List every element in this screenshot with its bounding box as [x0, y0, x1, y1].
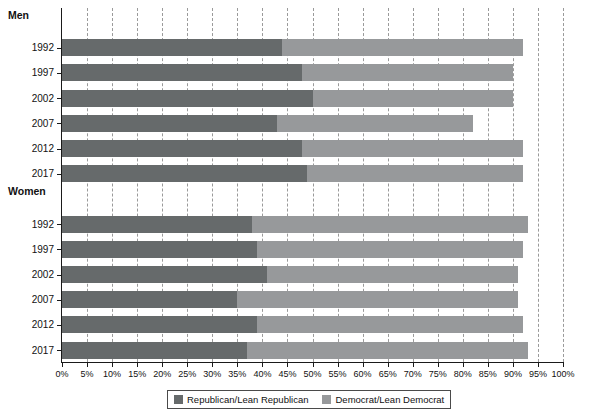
x-axis-tick-label: 0%: [55, 369, 68, 380]
gridline: [137, 8, 138, 362]
row-label-year: 2002: [0, 90, 54, 107]
gridline: [538, 8, 539, 362]
bar-segment-republican: [62, 216, 252, 233]
x-axis-tick-label: 90%: [504, 369, 522, 380]
row-label-year: 2012: [0, 316, 54, 333]
gridline: [363, 8, 364, 362]
bar-segment-democrat: [257, 316, 523, 333]
bar-segment-democrat: [313, 90, 513, 107]
bar-segment-democrat: [257, 241, 523, 258]
gridline: [262, 8, 263, 362]
row-label-year: 2007: [0, 291, 54, 308]
group-label-women: Women: [8, 185, 46, 197]
bar-segment-democrat: [307, 165, 522, 182]
bar-segment-democrat: [302, 64, 512, 81]
x-axis-tick: [187, 362, 188, 367]
legend-item-democrat: Democrat/Lean Democrat: [322, 393, 444, 406]
row-label-year: 2017: [0, 165, 54, 182]
x-axis-tick-label: 55%: [329, 369, 347, 380]
x-axis-tick-label: 75%: [429, 369, 447, 380]
bar-segment-republican: [62, 39, 282, 56]
gridline: [488, 8, 489, 362]
row-label-year: 1992: [0, 216, 54, 233]
gridline: [87, 8, 88, 362]
bar-segment-democrat: [247, 342, 528, 359]
gridline: [438, 8, 439, 362]
row-label-year: 2012: [0, 140, 54, 157]
x-axis-tick-label: 30%: [203, 369, 221, 380]
legend-label-democrat: Democrat/Lean Democrat: [335, 393, 444, 406]
x-axis-tick-label: 85%: [479, 369, 497, 380]
x-axis-tick: [287, 362, 288, 367]
x-axis-tick: [388, 362, 389, 367]
gridline: [413, 8, 414, 362]
bar-segment-republican: [62, 115, 277, 132]
bar-segment-democrat: [277, 115, 472, 132]
x-axis-tick: [488, 362, 489, 367]
legend-swatch-republican: [174, 395, 183, 404]
x-axis-tick-label: 45%: [278, 369, 296, 380]
bar-segment-democrat: [302, 140, 522, 157]
gridline: [187, 8, 188, 362]
gridline: [212, 8, 213, 362]
gridline: [563, 8, 564, 362]
row-label-year: 2007: [0, 115, 54, 132]
legend-label-republican: Republican/Lean Republican: [187, 393, 308, 406]
gridline: [287, 8, 288, 362]
x-axis-tick: [112, 362, 113, 367]
bar-segment-democrat: [282, 39, 522, 56]
x-axis-tick-label: 40%: [253, 369, 271, 380]
x-axis-tick-label: 70%: [404, 369, 422, 380]
x-axis-tick: [513, 362, 514, 367]
group-label-men: Men: [8, 9, 29, 21]
gridline: [513, 8, 514, 362]
gridline: [338, 8, 339, 362]
x-axis-tick: [262, 362, 263, 367]
x-axis-tick-label: 60%: [354, 369, 372, 380]
bar-segment-republican: [62, 266, 267, 283]
bar-segment-democrat: [267, 266, 518, 283]
x-axis-tick-label: 35%: [228, 369, 246, 380]
bar-segment-republican: [62, 140, 302, 157]
bar-segment-republican: [62, 165, 307, 182]
bar-segment-republican: [62, 316, 257, 333]
bar-segment-republican: [62, 64, 302, 81]
gridline: [388, 8, 389, 362]
x-axis-tick-label: 20%: [153, 369, 171, 380]
x-axis-tick: [212, 362, 213, 367]
row-label-year: 1997: [0, 241, 54, 258]
bar-segment-republican: [62, 241, 257, 258]
x-axis-tick: [413, 362, 414, 367]
x-axis-tick: [438, 362, 439, 367]
legend-item-republican: Republican/Lean Republican: [174, 393, 308, 406]
x-axis-tick-label: 5%: [81, 369, 94, 380]
row-label-year: 2017: [0, 342, 54, 359]
y-axis-line: [61, 8, 62, 362]
stacked-bar-chart: 0%5%10%15%20%25%30%35%40%45%50%55%60%65%…: [0, 0, 601, 410]
x-axis-tick: [363, 362, 364, 367]
row-label-year: 1992: [0, 39, 54, 56]
bar-segment-republican: [62, 342, 247, 359]
gridline: [313, 8, 314, 362]
x-axis-tick-label: 10%: [103, 369, 121, 380]
x-axis-tick-label: 25%: [178, 369, 196, 380]
bar-segment-democrat: [237, 291, 518, 308]
gridline: [463, 8, 464, 362]
legend-swatch-democrat: [322, 395, 331, 404]
bar-segment-democrat: [252, 216, 528, 233]
row-label-year: 1997: [0, 64, 54, 81]
row-label-year: 2002: [0, 266, 54, 283]
x-axis-tick-label: 15%: [128, 369, 146, 380]
x-axis-tick: [162, 362, 163, 367]
x-axis-tick-label: 95%: [529, 369, 547, 380]
x-axis-tick: [563, 362, 564, 367]
x-axis-tick: [463, 362, 464, 367]
x-axis-tick: [313, 362, 314, 367]
x-axis-tick-label: 65%: [379, 369, 397, 380]
x-axis-tick-label: 80%: [454, 369, 472, 380]
x-axis-tick: [338, 362, 339, 367]
x-axis-tick: [137, 362, 138, 367]
gridline: [112, 8, 113, 362]
gridline: [162, 8, 163, 362]
gridline: [237, 8, 238, 362]
